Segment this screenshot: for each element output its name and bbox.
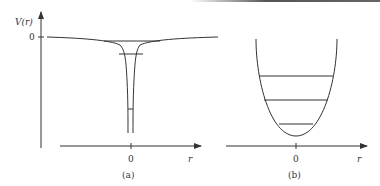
y-tick-label-zero: 0 [29,33,35,42]
caption-b: (b) [288,171,301,180]
potential-curve-a-left [47,37,128,133]
panel-a [38,12,218,149]
potential-curve-b [256,39,337,136]
x-tick-label-zero-a: 0 [128,155,134,164]
panel-b [226,39,367,149]
x-tick-label-zero-b: 0 [293,155,299,164]
x-axis-label-a: r [188,155,192,164]
caption-a: (a) [122,171,134,180]
potential-curve-a-right [133,37,218,133]
x-axis-label-b: r [357,155,361,164]
y-axis-label-a: V(r) [15,18,33,27]
